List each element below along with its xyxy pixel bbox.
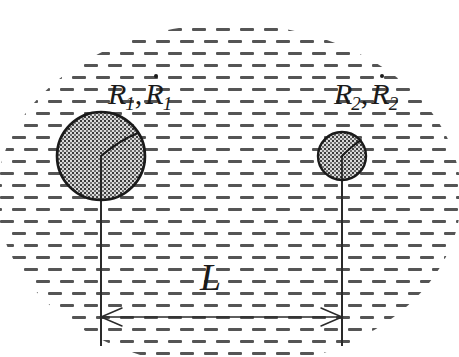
label-r1-rate-symbol: R (145, 77, 163, 110)
label-r1-subscript: 1 (125, 93, 135, 114)
label-r2-subscript: 2 (351, 93, 361, 114)
label-r2-rate-subscript: 2 (389, 93, 399, 114)
label-r2-rate-group: R (371, 79, 389, 109)
label-radius-2: R2,R2 (334, 79, 398, 113)
label-r1-rate-subscript: 1 (163, 93, 173, 114)
label-r1-symbol: R (108, 77, 126, 110)
bubble-1 (57, 112, 145, 200)
label-r2-symbol: R (334, 77, 352, 110)
label-r1-rate-group: R (145, 79, 163, 109)
bubble-pair-figure: R1,R1 R2,R2 L (0, 0, 459, 357)
label-distance: L (200, 258, 221, 296)
label-r2-rate-symbol: R (371, 77, 389, 110)
overdot-icon (154, 74, 158, 78)
overdot-icon (380, 74, 384, 78)
bubble-2 (318, 132, 366, 180)
label-radius-1: R1,R1 (108, 79, 172, 113)
label-distance-symbol: L (200, 256, 221, 298)
figure-canvas (0, 0, 459, 357)
label-r1-separator: , (135, 77, 143, 110)
label-r2-separator: , (361, 77, 369, 110)
